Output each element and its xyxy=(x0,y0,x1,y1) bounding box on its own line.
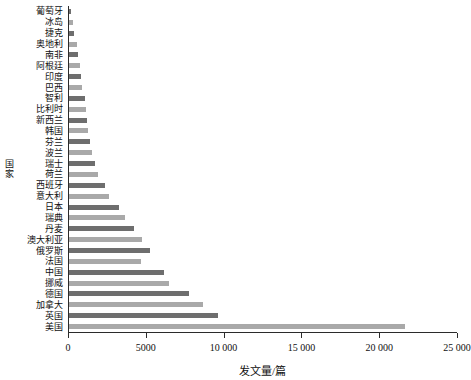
category-label: 捷克 xyxy=(45,29,63,38)
x-tick-label: 25 000 xyxy=(443,342,471,353)
category-label: 波兰 xyxy=(45,148,63,157)
bar xyxy=(69,248,150,253)
bar xyxy=(69,270,164,275)
x-tick-mark xyxy=(224,333,225,338)
category-label: 英国 xyxy=(45,311,63,320)
category-label: 芬兰 xyxy=(45,137,63,146)
bar xyxy=(69,85,82,90)
bar xyxy=(69,107,86,112)
bar xyxy=(69,226,134,231)
category-label: 日本 xyxy=(45,203,63,212)
category-label-group: 葡萄牙冰岛捷克奥地利南非阿根廷印度巴西智利比利时新西兰韩国芬兰波兰瑞士荷兰西班牙… xyxy=(0,6,66,332)
category-label: 南非 xyxy=(45,50,63,59)
category-label: 冰岛 xyxy=(45,18,63,27)
category-label: 西班牙 xyxy=(36,181,63,190)
bar xyxy=(69,313,218,318)
x-axis-title: 发文量/篇 xyxy=(68,362,457,378)
bar xyxy=(69,74,81,79)
category-label: 奥地利 xyxy=(36,40,63,49)
category-label: 丹麦 xyxy=(45,224,63,233)
x-tick-mark xyxy=(146,333,147,338)
bar xyxy=(69,128,88,133)
category-label: 比利时 xyxy=(36,105,63,114)
category-label: 瑞典 xyxy=(45,213,63,222)
bar xyxy=(69,281,169,286)
category-label: 美国 xyxy=(45,322,63,331)
bar xyxy=(69,161,95,166)
bar xyxy=(69,302,203,307)
x-tick-mark xyxy=(301,333,302,338)
bar xyxy=(69,42,77,47)
category-label: 挪威 xyxy=(45,279,63,288)
bar xyxy=(69,215,125,220)
category-label: 印度 xyxy=(45,72,63,81)
bar xyxy=(69,63,80,68)
x-tick-label: 20 000 xyxy=(365,342,393,353)
category-label: 新西兰 xyxy=(36,116,63,125)
category-label: 韩国 xyxy=(45,126,63,135)
category-label: 葡萄牙 xyxy=(36,7,63,16)
bar xyxy=(69,52,78,57)
bar xyxy=(69,205,119,210)
bar xyxy=(69,96,85,101)
category-label: 巴西 xyxy=(45,83,63,92)
x-tick-mark xyxy=(379,333,380,338)
plot-area: 0500010 00015 00020 00025 000 发文量/篇 xyxy=(68,6,457,332)
bar xyxy=(69,194,109,199)
category-label: 俄罗斯 xyxy=(36,246,63,255)
bar xyxy=(69,118,87,123)
category-label: 澳大利亚 xyxy=(27,235,63,244)
bar xyxy=(69,20,73,25)
horizontal-bar-chart: 国家 葡萄牙冰岛捷克奥地利南非阿根廷印度巴西智利比利时新西兰韩国芬兰波兰瑞士荷兰… xyxy=(0,0,471,380)
bar xyxy=(69,9,71,14)
x-tick-label: 15 000 xyxy=(288,342,316,353)
category-label: 瑞士 xyxy=(45,159,63,168)
category-label: 加拿大 xyxy=(36,300,63,309)
bar xyxy=(69,259,141,264)
x-tick-mark xyxy=(68,333,69,338)
category-label: 中国 xyxy=(45,268,63,277)
category-label: 德国 xyxy=(45,289,63,298)
x-tick-label: 5000 xyxy=(136,342,156,353)
bar xyxy=(69,237,142,242)
x-tick-label: 10 000 xyxy=(210,342,238,353)
bar xyxy=(69,150,92,155)
bar xyxy=(69,139,90,144)
bar xyxy=(69,291,189,296)
bar xyxy=(69,172,98,177)
x-axis-line xyxy=(68,332,457,333)
x-tick-label: 0 xyxy=(66,342,71,353)
category-label: 智利 xyxy=(45,94,63,103)
bar xyxy=(69,31,74,36)
category-label: 阿根廷 xyxy=(36,61,63,70)
category-label: 荷兰 xyxy=(45,170,63,179)
bar xyxy=(69,183,105,188)
category-label: 法国 xyxy=(45,257,63,266)
bar xyxy=(69,324,405,329)
x-tick-mark xyxy=(457,333,458,338)
category-label: 意大利 xyxy=(36,192,63,201)
